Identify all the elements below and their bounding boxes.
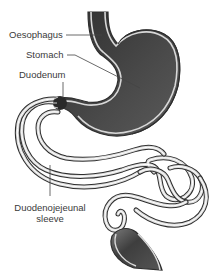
label-oesophagus: Oesophagus — [9, 29, 63, 40]
label-duodenum: Duodenum — [19, 69, 65, 80]
label-sleeve-line1: Duodenojejeunal — [13, 202, 87, 213]
label-stomach: Stomach — [26, 49, 64, 60]
stomach-sleeve-illustration — [0, 0, 215, 272]
diagram-canvas: Oesophagus Stomach Duodenum Duodenojejeu… — [0, 0, 215, 272]
duodenum-anchor — [53, 96, 67, 110]
jejunum-segment — [111, 229, 162, 270]
stomach-organ — [60, 12, 180, 136]
label-sleeve-line2: sleeve — [13, 213, 87, 224]
